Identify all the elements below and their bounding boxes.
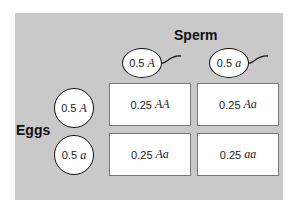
sperm-tail-icon (248, 53, 270, 67)
sperm-allele: a (235, 56, 241, 71)
egg-allele: A (79, 101, 86, 116)
cell-Aa-top: 0.25Aa (197, 83, 279, 126)
sperm-freq: 0.5 (217, 57, 232, 69)
cell-aa: 0.25aa (197, 133, 279, 176)
cell-freq: 0.25 (131, 149, 152, 161)
cell-freq: 0.25 (220, 149, 241, 161)
egg-freq: 0.5 (61, 102, 76, 114)
eggs-label: Eggs (16, 122, 50, 138)
cell-AA: 0.25AA (109, 83, 191, 126)
cell-freq: 0.25 (130, 99, 151, 111)
cell-genotype: Aa (244, 97, 257, 112)
sperm-tail-icon (161, 53, 183, 67)
sperm-oval-a: 0.5a (209, 48, 249, 78)
sperm-oval-A: 0.5A (122, 48, 162, 78)
sperm-freq: 0.5 (129, 57, 144, 69)
sperm-label: Sperm (174, 27, 218, 43)
cell-genotype: Aa (156, 147, 169, 162)
cell-genotype: aa (244, 147, 256, 162)
egg-allele: a (80, 148, 86, 163)
cell-Aa-bottom: 0.25Aa (109, 133, 191, 176)
egg-circle-A: 0.5A (54, 88, 94, 128)
sperm-allele: A (147, 56, 154, 71)
cell-freq: 0.25 (219, 99, 240, 111)
egg-circle-a: 0.5a (54, 135, 94, 175)
cell-genotype: AA (155, 97, 170, 112)
egg-freq: 0.5 (62, 149, 77, 161)
